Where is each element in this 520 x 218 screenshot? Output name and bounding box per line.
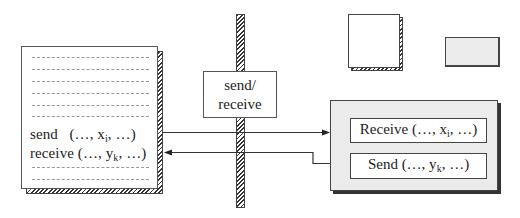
send-receive-label-line2: receive <box>204 95 276 114</box>
send-box: Send (…, yk, …) <box>350 153 487 179</box>
small-gray-rectangle <box>445 37 500 67</box>
send-box-args-end: , …) <box>442 156 470 172</box>
receive-box: Receive (…, xi, …) <box>350 118 487 143</box>
remote-process-panel: Receive (…, xi, …) Send (…, yk, …) <box>330 100 498 191</box>
send-box-keyword: Send <box>368 156 398 172</box>
send-box-args: (…, y <box>402 156 437 172</box>
receive-box-args: (…, x <box>412 121 447 137</box>
small-white-square <box>348 14 400 68</box>
receive-box-keyword: Receive <box>360 121 408 137</box>
send-receive-label-line1: send/ <box>204 76 276 95</box>
send-receive-label-box: send/ receive <box>203 71 277 118</box>
receive-arrow <box>165 153 330 164</box>
receive-box-args-end: , …) <box>450 121 478 137</box>
